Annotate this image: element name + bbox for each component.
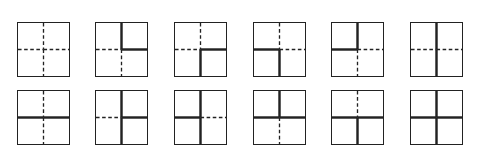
quadrant-square-r1-c1 [17, 22, 70, 77]
quadrant-square-r2-c3 [174, 90, 227, 145]
quadrant-square-r1-c5 [331, 22, 384, 77]
quadrant-square-r2-c5 [331, 90, 384, 145]
quadrant-square-r2-c2 [95, 90, 148, 145]
quadrant-square-r1-c2 [95, 22, 148, 77]
quadrant-square-r1-c3 [174, 22, 227, 77]
quadrant-square-r1-c4 [253, 22, 306, 77]
quadrant-square-r2-c6 [410, 90, 463, 145]
quadrant-square-r2-c1 [17, 90, 70, 145]
quadrant-square-r2-c4 [253, 90, 306, 145]
quadrant-square-r1-c6 [410, 22, 463, 77]
